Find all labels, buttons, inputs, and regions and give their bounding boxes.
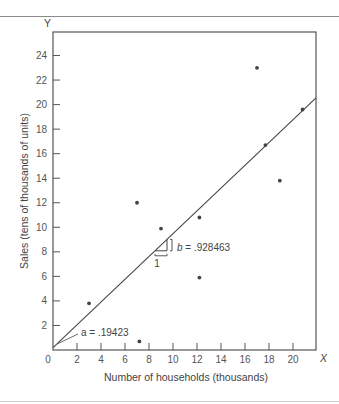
x-tick-label: 20: [287, 354, 299, 365]
y-tick-label: 10: [36, 222, 48, 233]
data-point: [301, 108, 305, 112]
x-tick-label: 2: [74, 354, 80, 365]
plot-frame: [53, 32, 316, 350]
y-tick-label: 2: [41, 320, 47, 331]
data-point: [138, 340, 142, 344]
data-point: [198, 276, 202, 280]
y-tick-label: 20: [36, 99, 48, 110]
regression-line-path: [53, 98, 316, 348]
run-bracket: [155, 254, 167, 256]
data-point: [278, 179, 282, 183]
x-tick-label: 12: [191, 354, 203, 365]
y-tick-label: 16: [36, 148, 48, 159]
x-tick-label: 6: [122, 354, 128, 365]
y-tick-label: 14: [36, 173, 48, 184]
data-point: [159, 227, 163, 231]
y-tick-label: 12: [36, 197, 48, 208]
y-axis-title: Sales (tens of thousands of units): [18, 113, 30, 269]
scatter-chart: 24681012141618202224 2468101214161820 Y …: [0, 0, 339, 404]
slope-label: b = .928463: [177, 242, 231, 253]
y-tick-label: 8: [41, 246, 47, 257]
x-axis-letter: X: [319, 352, 328, 364]
y-axis-ticks: 24681012141618202224: [36, 50, 60, 331]
x-tick-label: 4: [98, 354, 104, 365]
x-tick-label: 16: [239, 354, 251, 365]
data-point: [135, 201, 139, 205]
data-point: [198, 216, 202, 220]
x-tick-label: 18: [263, 354, 275, 365]
data-point: [264, 143, 268, 147]
origin-label: 0: [45, 354, 51, 365]
x-axis-ticks: 2468101214161820: [74, 343, 299, 365]
intercept-label: a = .19423: [81, 327, 129, 338]
x-tick-label: 14: [215, 354, 227, 365]
y-tick-label: 24: [36, 50, 48, 61]
rise-bracket: [170, 239, 172, 250]
intercept-leader: [57, 334, 78, 344]
x-axis-title: Number of households (thousands): [104, 371, 268, 383]
x-tick-label: 10: [167, 354, 179, 365]
y-tick-label: 22: [36, 75, 48, 86]
x-tick-label: 8: [146, 354, 152, 365]
data-point: [255, 66, 259, 70]
plot-border: [53, 32, 316, 350]
data-point: [87, 301, 91, 305]
y-tick-label: 18: [36, 124, 48, 135]
regression-line: [53, 98, 316, 348]
y-axis-letter: Y: [44, 17, 51, 29]
slope-value: = .928463: [183, 242, 231, 253]
y-tick-label: 6: [41, 271, 47, 282]
slope-run-label: 1: [154, 258, 160, 269]
data-points: [87, 66, 304, 343]
y-tick-label: 4: [41, 295, 47, 306]
